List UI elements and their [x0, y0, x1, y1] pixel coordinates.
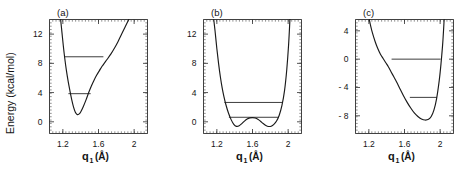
xaxis-title-subscript: 1 — [396, 157, 400, 164]
xtick-label: 2 — [438, 139, 443, 149]
panel-a-ticklabels: 048121.21.62 — [33, 29, 137, 148]
panel-a-levels — [64, 57, 103, 94]
panel-c-ticklabels: 40- 4- 81.21.62 — [339, 26, 443, 149]
ytick-label: - 4 — [339, 82, 349, 92]
panel-b-curve-group — [214, 20, 290, 127]
panel-b-ticklabels: 048121.21.62 — [187, 29, 291, 148]
panel-label-a: (a) — [57, 7, 69, 18]
panel-c-levels — [392, 59, 441, 97]
panel-b: 048121.21.62 (b) q 1 (Å) — [156, 0, 311, 173]
xtick-label: 1.2 — [363, 139, 375, 149]
xtick-label: 1.2 — [57, 139, 69, 149]
xaxis-title-symbol: q — [388, 150, 395, 162]
panel-b-levels — [224, 102, 282, 117]
xaxis-title-subscript: 1 — [244, 157, 248, 164]
panel-b-axes — [204, 20, 302, 134]
ytick-label: 4 — [192, 88, 197, 98]
panel-a-xaxis-title: q 1 (Å) — [82, 150, 109, 164]
xtick-label: 1.2 — [211, 139, 223, 149]
yaxis-title: Energy (kcal/mol) — [4, 52, 16, 134]
panel-label-b: (b) — [211, 7, 223, 18]
ytick-label: 8 — [192, 58, 197, 68]
xtick-label: 1.6 — [93, 139, 105, 149]
xaxis-title-unit: (Å) — [249, 150, 263, 162]
xtick-label: 1.6 — [247, 139, 259, 149]
potential-curve-c — [369, 20, 444, 121]
panel-a-curve-group — [61, 20, 129, 115]
panel-b-xaxis-title: q 1 (Å) — [236, 150, 263, 164]
panel-a-plot: 048121.21.62 (a) q 1 (Å) Energy (kcal/mo… — [0, 0, 156, 173]
xaxis-title-symbol: q — [236, 150, 243, 162]
ytick-label: 8 — [38, 58, 43, 68]
panel-a-ticks — [50, 20, 148, 134]
ytick-label: 12 — [187, 29, 197, 39]
panel-label-c: (c) — [363, 7, 374, 18]
ytick-label: 4 — [344, 26, 349, 36]
xaxis-title-unit: (Å) — [95, 150, 109, 162]
xtick-label: 2 — [132, 139, 137, 149]
panel-b-ticks — [204, 20, 302, 134]
panel-a-axes — [50, 20, 148, 134]
panel-c: 40- 4- 81.21.62 (c) q 1 (Å) — [311, 0, 467, 173]
panel-c-axes — [356, 20, 454, 134]
ytick-label: 0 — [38, 117, 43, 127]
xtick-label: 1.6 — [399, 139, 411, 149]
xaxis-title-subscript: 1 — [90, 157, 94, 164]
ytick-label: 12 — [33, 29, 43, 39]
potential-curve-b — [214, 20, 290, 127]
panel-c-plot: 40- 4- 81.21.62 (c) q 1 (Å) — [311, 0, 467, 173]
figure-potential-energy-curves: 048121.21.62 (a) q 1 (Å) Energy (kcal/mo… — [0, 0, 467, 173]
ytick-label: - 8 — [339, 111, 349, 121]
potential-curve-a — [61, 20, 129, 115]
panel-a: 048121.21.62 (a) q 1 (Å) Energy (kcal/mo… — [0, 0, 156, 173]
xaxis-title-symbol: q — [82, 150, 89, 162]
panel-c-ticks — [356, 20, 454, 134]
ytick-label: 0 — [344, 54, 349, 64]
panel-c-curve-group — [369, 20, 444, 121]
xtick-label: 2 — [286, 139, 291, 149]
xaxis-title-unit: (Å) — [401, 150, 415, 162]
panel-b-plot: 048121.21.62 (b) q 1 (Å) — [156, 0, 311, 173]
ytick-label: 4 — [38, 88, 43, 98]
ytick-label: 0 — [192, 117, 197, 127]
panel-c-xaxis-title: q 1 (Å) — [388, 150, 415, 164]
